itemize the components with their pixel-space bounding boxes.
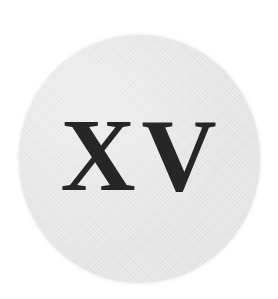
roman-numeral-label: XV [18,31,259,279]
numeral-disc: XV [19,35,260,283]
